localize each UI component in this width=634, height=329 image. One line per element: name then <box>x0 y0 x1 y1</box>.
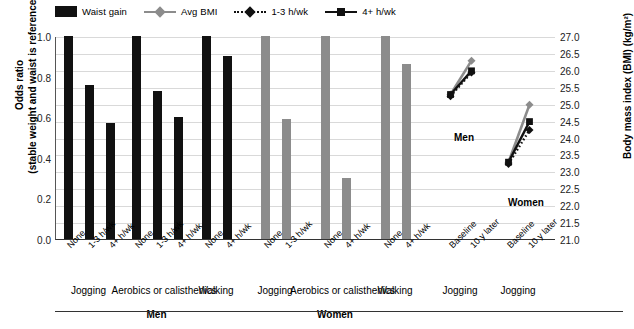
right-axis-tick: 22.5 <box>560 184 579 195</box>
right-axis-tick: 23.5 <box>560 150 579 161</box>
legend-item-1-3-hwk: 1-3 h/wk <box>234 6 308 17</box>
plot-area: 27.026.526.025.525.024.524.023.523.022.5… <box>55 37 555 240</box>
bmi-marker <box>468 67 475 74</box>
right-axis-tick: 23.0 <box>560 167 579 178</box>
one-to-three-dotted-line-icon <box>234 6 266 17</box>
plot-inner: 27.026.526.025.525.024.524.023.523.022.5… <box>56 37 555 239</box>
legend-label: Waist gain <box>82 6 127 17</box>
right-axis-tick: 21.0 <box>560 235 579 246</box>
bmi-annotation-women: Women <box>508 197 544 208</box>
left-axis-tick: 0.8 <box>37 72 51 83</box>
waist-gain-swatch-icon <box>55 6 77 17</box>
four-plus-solid-line-icon <box>325 6 357 17</box>
bmi-marker <box>505 159 512 166</box>
left-axis-title: Odds ratio (stable weight and waist is r… <box>13 0 39 185</box>
left-axis-title-line1: Odds ratio <box>13 0 26 185</box>
bmi-annotation-men: Men <box>454 132 474 143</box>
left-axis-tick: 0.4 <box>37 153 51 164</box>
right-axis-tick: 21.5 <box>560 218 579 229</box>
bmi-line-women-4hwk <box>509 122 530 163</box>
left-axis-tick: 0.2 <box>37 194 51 205</box>
legend-label: 4+ h/wk <box>362 6 396 17</box>
right-axis-tick: 26.5 <box>560 48 579 59</box>
legend-label: 1-3 h/wk <box>271 6 308 17</box>
bmi-trend-lines <box>56 37 556 240</box>
legend-item-waist-gain: Waist gain <box>55 6 127 17</box>
left-axis-tick: 0.6 <box>37 113 51 124</box>
right-axis-tick: 22.0 <box>560 201 579 212</box>
legend-label: Avg BMI <box>181 6 217 17</box>
right-axis-tick: 25.0 <box>560 99 579 110</box>
legend-item-4plus-hwk: 4+ h/wk <box>325 6 396 17</box>
right-axis-title: Body mass index (BMI) (kg/m²) <box>622 0 634 186</box>
legend-item-avg-bmi: Avg BMI <box>144 6 217 17</box>
right-axis-tick: 27.0 <box>560 32 579 43</box>
left-axis-tick: 1.0 <box>37 32 51 43</box>
right-axis-tick: 24.5 <box>560 116 579 127</box>
left-axis-tick: 0.0 <box>37 235 51 246</box>
x-group-label: Jogging <box>473 285 563 297</box>
bmi-marker <box>526 118 533 125</box>
bmi-line-men-4hwk <box>451 71 472 95</box>
right-axis-tick: 24.0 <box>560 133 579 144</box>
avg-bmi-line-icon <box>144 6 176 17</box>
right-axis-tick: 25.5 <box>560 82 579 93</box>
footer-rule <box>55 311 623 312</box>
chart-legend: Waist gain Avg BMI 1-3 h/wk 4+ h/wk <box>55 6 396 17</box>
bmi-marker <box>526 101 534 109</box>
right-axis-tick: 26.0 <box>560 65 579 76</box>
bmi-marker <box>447 91 454 98</box>
